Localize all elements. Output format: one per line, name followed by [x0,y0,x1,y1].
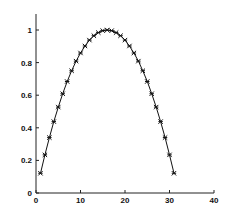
x-ticks: 010203040 [34,190,219,205]
x-tick-label: 20 [121,196,130,205]
asterisk-marker-icon [145,79,149,83]
y-tick-label: 0.2 [21,156,33,165]
y-axis: 00.20.40.60.81 [21,14,39,198]
asterisk-marker-icon [114,30,118,34]
x-tick-label: 0 [34,196,39,205]
x-axis: 010203040 [34,190,219,205]
asterisk-marker-icon [78,51,82,55]
asterisk-marker-icon [69,69,73,73]
y-tick-label: 0.4 [21,124,33,133]
y-tick-label: 0.6 [21,91,33,100]
series-line [41,30,175,173]
y-tick-label: 0.8 [21,59,33,68]
asterisk-marker-icon [96,30,100,34]
asterisk-marker-icon [118,34,122,38]
asterisk-marker-icon [74,59,78,63]
data-series [38,28,176,176]
y-tick-label: 1 [28,26,33,35]
asterisk-marker-icon [127,44,131,48]
asterisk-marker-icon [150,92,154,96]
asterisk-marker-icon [141,69,145,73]
asterisk-marker-icon [109,28,113,32]
line-chart: 00.20.40.60.81 010203040 [0,0,232,211]
y-tick-label: 0 [28,189,33,198]
x-tick-label: 30 [165,196,174,205]
asterisk-marker-icon [136,59,140,63]
asterisk-marker-icon [87,38,91,42]
asterisk-marker-icon [83,44,87,48]
x-tick-label: 40 [210,196,219,205]
asterisk-marker-icon [105,28,109,32]
asterisk-marker-icon [92,34,96,38]
asterisk-marker-icon [101,28,105,32]
x-tick-label: 10 [76,196,85,205]
asterisk-marker-icon [123,38,127,42]
asterisk-marker-icon [132,51,136,55]
